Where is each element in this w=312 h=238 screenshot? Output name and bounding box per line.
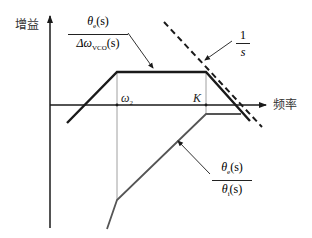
integrator-denominator: s [236, 45, 250, 59]
vco-subscript: VCO [92, 44, 107, 52]
open-loop-label-arrow [128, 33, 153, 68]
error-label-arrow [178, 141, 210, 174]
bode-diagram [0, 0, 312, 238]
delta-omega: Δω [77, 36, 93, 50]
k-tick [205, 104, 208, 107]
fraction-bar [212, 180, 252, 181]
x-axis-label: 频率 [273, 99, 297, 111]
k-label: K [193, 92, 201, 104]
open-loop-label-denominator: ΔωVCO(s) [68, 36, 128, 55]
open-loop-label-numerator: θe(s) [68, 14, 128, 33]
omega2-tick [116, 104, 119, 107]
open-loop-label: θe(s) ΔωVCO(s) [68, 14, 128, 55]
fraction-bar [68, 34, 128, 35]
arg: (s) [230, 160, 243, 174]
open-loop-curve [67, 72, 250, 123]
error-label-numerator: θe(s) [212, 160, 252, 179]
error-transfer-label: θe(s) θi(s) [212, 160, 252, 201]
error-label-denominator: θi(s) [212, 182, 252, 201]
integrator-label: 1 s [236, 28, 250, 59]
arg: (s) [96, 14, 109, 28]
arg: (s) [230, 182, 243, 196]
omega-subscript: 2 [129, 99, 133, 107]
arg: (s) [107, 36, 120, 50]
fraction-bar [236, 43, 250, 44]
omega2-label: ω2 [121, 92, 133, 107]
y-axis-label: 增益 [15, 19, 39, 31]
integrator-numerator: 1 [236, 28, 250, 42]
integrator-label-arrow [205, 41, 232, 60]
